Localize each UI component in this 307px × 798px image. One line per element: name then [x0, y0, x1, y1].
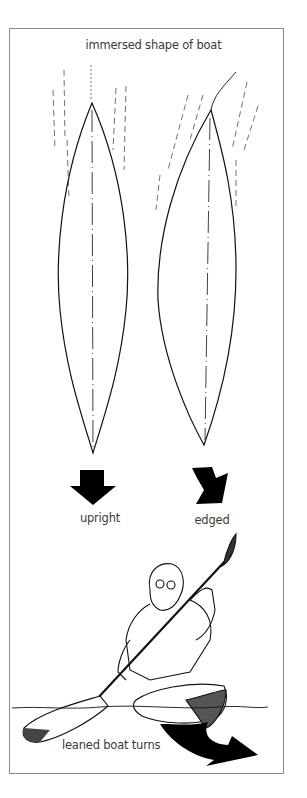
edged-arrow-icon [192, 467, 228, 504]
edged-hull-outline [158, 110, 236, 445]
kayaker-torso [126, 600, 211, 680]
upright-label: upright [70, 511, 130, 525]
turn-arrow-icon [160, 722, 258, 766]
upright-centerline [92, 110, 93, 448]
edged-label: edged [182, 513, 242, 527]
kayaker-head [149, 564, 183, 611]
edged-wake-lines [156, 82, 258, 210]
paddle-blade-upper [222, 534, 236, 566]
edged-centerline [205, 118, 210, 440]
kayaker-glasses-left [156, 580, 164, 588]
kayaker-glasses-right [167, 581, 175, 589]
turn-caption: leaned boat turns [62, 738, 160, 752]
kayaker-illustration [12, 534, 268, 742]
upright-arrow-icon [70, 470, 116, 505]
diagram-artwork [0, 0, 307, 798]
upright-wake-lines [53, 65, 126, 200]
upright-hull [58, 103, 127, 453]
edged-hull [158, 72, 236, 445]
edged-bow-line [211, 72, 236, 110]
